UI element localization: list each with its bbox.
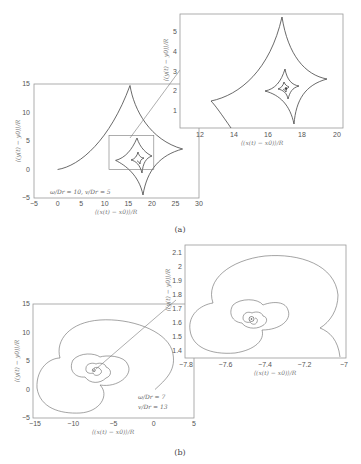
tick-label: 1.8	[172, 291, 182, 298]
tick-label: 20	[148, 200, 156, 207]
panel-a-inset-xlabel: ⟨(x(t) − x0)⟩/R	[241, 139, 284, 146]
tick-label: 0	[152, 420, 156, 427]
tick-label: 16	[264, 131, 272, 138]
tick-label: 15	[22, 80, 30, 87]
tick-label: −7.4	[258, 361, 272, 368]
tick-label: 14	[230, 131, 238, 138]
tick-label: 1.4	[172, 347, 182, 354]
figure: −5 0 5 10 15 20 25 30 −5 0 5 10 15 ⟨(x(t…	[0, 0, 361, 464]
tick-label: 10	[101, 200, 109, 207]
plot-frame	[34, 84, 199, 198]
panel-a-main-plot: −5 0 5 10 15 20 25 30 −5 0 5 10 15 ⟨(x(t…	[14, 80, 203, 215]
panel-a-annotation: ω/Dr = 10, v/Dr = 5	[50, 188, 111, 195]
panel-b-main-ylabel: ⟨(y(t) − y0)⟩/R	[13, 339, 21, 382]
panel-a-main-xticks: −5 0 5 10 15 20 25 30	[30, 200, 203, 207]
panel-b-main-yticks: −5 0 5 10 15	[22, 300, 30, 421]
tick-label: 0	[56, 200, 60, 207]
tick-label: 5	[26, 357, 30, 364]
tick-label: 5	[192, 420, 196, 427]
panel-b-inset-plot: −7.8 −7.6 −7.4 −7.2 −7 1.4 1.5 1.6 1.7 1…	[164, 245, 348, 376]
tick-label: 1.6	[172, 319, 182, 326]
tick-label: 30	[195, 200, 203, 207]
tick-label: 20	[333, 131, 341, 138]
marker-dot	[251, 318, 253, 320]
plot-frame	[33, 304, 194, 418]
tick-label: 12	[196, 131, 204, 138]
tick-label: 3	[173, 68, 177, 75]
tick-label: 10	[22, 329, 30, 336]
tick-label: −10	[67, 420, 79, 427]
tick-label: 0	[26, 386, 30, 393]
tick-label: −5	[30, 200, 38, 207]
tick-label: 4	[173, 48, 177, 55]
plot-frame	[185, 245, 346, 358]
tick-label: −5	[22, 194, 30, 201]
panel-a-inset-center-marker	[285, 87, 288, 90]
tick-label: 1.9	[172, 277, 182, 284]
panel-a-inset-xticks: 12 14 16 18 20	[196, 131, 341, 138]
panel-a-main-ylabel: ⟨(y(t) − y0)⟩/R	[14, 119, 22, 162]
panel-a-inset-plot: 12 14 16 18 20 1 2 3 4 5 ⟨(x(t) − x0)⟩/R…	[162, 14, 343, 146]
panel-a-main-yticks: −5 0 5 10 15	[22, 80, 30, 201]
tick-label: 1	[173, 107, 177, 114]
tick-label: 25	[172, 200, 180, 207]
panel-b-inset-yticks: 1.4 1.5 1.6 1.7 1.8 1.9 2 2.1	[172, 249, 182, 354]
panel-b-annotation-line2: v/Dr = 13	[138, 403, 168, 410]
panel-b-inset-ylabel: ⟨(y(t) − y0)⟩/R	[164, 268, 172, 311]
tick-label: −7.6	[219, 361, 233, 368]
tick-label: 15	[22, 300, 30, 307]
tick-label: 0	[26, 166, 30, 173]
tick-label: 18	[298, 131, 306, 138]
tick-label: 2.1	[172, 249, 182, 256]
tick-label: 10	[22, 109, 30, 116]
panel-b-main-xlabel: ⟨(x(t) − x0)⟩/R	[92, 428, 135, 435]
panel-b-annotation-line1: ω/Dr = 7	[138, 393, 165, 400]
tick-label: −7.2	[298, 361, 312, 368]
tick-label: −15	[29, 420, 41, 427]
panel-a-caption: (a)	[174, 225, 185, 234]
tick-label: 5	[26, 137, 30, 144]
panel-b-caption: (b)	[174, 448, 185, 457]
tick-label: 15	[124, 200, 132, 207]
tick-label: −5	[22, 414, 30, 421]
panel-b-inset-xlabel: ⟨(x(t) − x0)⟩/R	[254, 369, 297, 376]
tick-label: 5	[173, 28, 177, 35]
tick-label: 2	[178, 263, 182, 270]
tick-label: −5	[110, 420, 118, 427]
panel-a-inset-ylabel: ⟨(y(t) − y0)⟩/R	[162, 38, 170, 81]
panel-b-main-plot: −15 −10 −5 0 5 −5 0 5 10 15 ⟨(x(t) − x0)…	[13, 300, 196, 435]
tick-label: 5	[79, 200, 83, 207]
panel-b-main-xticks: −15 −10 −5 0 5	[29, 420, 196, 427]
tick-label: 2	[173, 87, 177, 94]
tick-label: −7.8	[179, 361, 193, 368]
panel-b-inset-xticks: −7.8 −7.6 −7.4 −7.2 −7	[179, 361, 348, 368]
tick-label: −7	[340, 361, 348, 368]
marker-dot	[93, 370, 94, 371]
plot-frame	[180, 14, 343, 128]
tick-label: 1.7	[172, 305, 182, 312]
panel-a-main-xlabel: ⟨(x(t) − x0)⟩/R	[95, 208, 138, 215]
tick-label: 1.5	[172, 333, 182, 340]
